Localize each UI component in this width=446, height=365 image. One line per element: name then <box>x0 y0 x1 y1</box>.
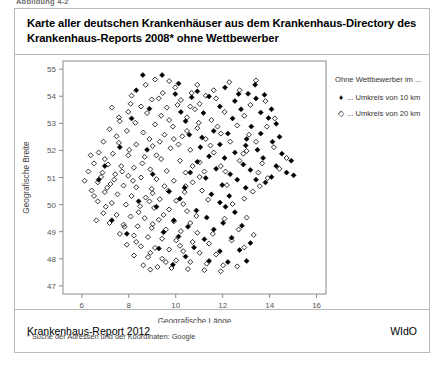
figure-body: 6810121416474849505152535455Geografische… <box>15 55 429 323</box>
figure-card: Karte aller deutschen Krankenhäuser aus … <box>14 8 430 353</box>
chart-legend: Ohne Wettbewerber im ... ♦ ... Umkreis v… <box>335 75 431 125</box>
svg-text:48: 48 <box>47 255 56 264</box>
svg-text:54: 54 <box>47 92 56 101</box>
svg-text:52: 52 <box>47 146 56 155</box>
legend-item-20km-label: ... Umkreis von 20 km <box>347 109 420 118</box>
svg-text:49: 49 <box>47 228 56 237</box>
footer-source: Krankenhaus-Report 2012 <box>27 325 150 337</box>
figure-caption: Abbildung 4-2 <box>16 0 69 6</box>
scatter-plot: 6810121416474849505152535455Geografische… <box>15 55 331 323</box>
legend-item-10km: ♦ ... Umkreis von 10 km <box>335 93 431 102</box>
filled-diamond-icon: ♦ <box>335 94 347 102</box>
svg-text:47: 47 <box>47 282 56 291</box>
scatter-plot-canvas: 6810121416474849505152535455Geografische… <box>15 55 331 323</box>
title-block: Karte aller deutschen Krankenhäuser aus … <box>15 9 429 55</box>
legend-item-10km-label: ... Umkreis von 10 km <box>347 93 420 102</box>
legend-item-20km: ◇ ... Umkreis von 20 km <box>335 109 431 118</box>
svg-text:53: 53 <box>47 119 56 128</box>
footer-publisher: WIdO <box>390 325 417 337</box>
page-title-line-2: Krankenhaus-Reports 2008* ohne Wettbewer… <box>27 31 417 46</box>
legend-title: Ohne Wettbewerber im ... <box>335 75 431 84</box>
page-title-line-1: Karte aller deutschen Krankenhäuser aus … <box>27 16 417 31</box>
open-diamond-icon: ◇ <box>335 110 347 118</box>
figure-footer: Krankenhaus-Report 2012 WIdO <box>15 309 429 351</box>
svg-text:51: 51 <box>47 174 56 183</box>
svg-text:55: 55 <box>47 65 56 74</box>
svg-text:50: 50 <box>47 201 56 210</box>
svg-text:Geografische Breite: Geografische Breite <box>22 141 31 214</box>
